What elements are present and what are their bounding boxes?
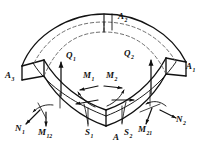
label-shear-S1: S1 bbox=[85, 128, 93, 140]
shell-element-drawing bbox=[0, 0, 208, 155]
label-corner-A1: A1 bbox=[186, 62, 195, 74]
shear-ticks-S bbox=[84, 102, 126, 126]
moment-arcs-center bbox=[78, 90, 124, 107]
label-moment-M1: M1 bbox=[83, 71, 94, 83]
arrow-S1 bbox=[76, 100, 98, 104]
edge-force-arrows-right bbox=[146, 108, 176, 124]
moment-arrows-center bbox=[80, 86, 122, 90]
label-force-N2: N2 bbox=[176, 115, 186, 127]
mid-surface-lines bbox=[33, 62, 176, 116]
label-corner-A2: A2 bbox=[118, 12, 127, 24]
label-moment-M2: M2 bbox=[106, 71, 117, 83]
hidden-edges-dashed bbox=[34, 22, 176, 76]
arrow-M2 bbox=[104, 86, 122, 88]
label-force-N1: N1 bbox=[15, 124, 25, 136]
label-twist-M12: M12 bbox=[38, 128, 52, 140]
label-shear-Q1: Q1 bbox=[66, 51, 76, 63]
label-shear-S2: S2 bbox=[124, 128, 132, 140]
label-twist-M21: M21 bbox=[138, 125, 152, 137]
arrow-N2 bbox=[160, 110, 176, 118]
label-corner-A3: A3 bbox=[5, 71, 14, 83]
figure-canvas: A A1 A2 A3 Q1 Q2 M1 M2 N1 N2 M12 M21 S1 … bbox=[0, 0, 208, 155]
arrow-M21 bbox=[146, 108, 152, 124]
twist-arc-left bbox=[33, 103, 53, 118]
label-shear-Q2: Q2 bbox=[124, 49, 134, 61]
label-corner-A: A bbox=[113, 133, 119, 145]
arrow-M1 bbox=[80, 86, 98, 90]
